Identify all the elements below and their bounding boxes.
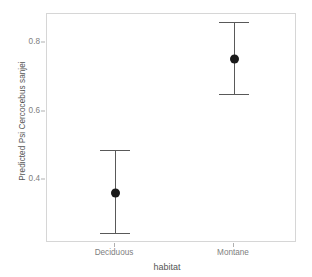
plot-area [47, 14, 295, 241]
chart-container: Predicted Psi Cercocebus sanjei 0.8 0.6 … [0, 0, 312, 277]
data-point[interactable] [230, 54, 239, 63]
x-axis-title: habitat [153, 263, 180, 272]
x-tick-mark [233, 243, 234, 247]
y-axis-tick-labels: 0.8 0.6 0.4 [27, 0, 40, 277]
y-tick-label: 0.4 [27, 175, 40, 183]
errorbar-cap-upper [219, 22, 249, 23]
y-tick-mark [41, 42, 45, 43]
y-tick-label: 0.6 [27, 106, 40, 114]
x-tick-label-montane: Montane [217, 249, 249, 257]
x-axis-title-wrapper: habitat [0, 263, 312, 272]
data-point[interactable] [111, 188, 120, 197]
x-tick-mark [114, 243, 115, 247]
plot-panel [46, 13, 296, 242]
y-tick-mark [41, 179, 45, 180]
y-tick-label: 0.8 [27, 38, 40, 46]
y-tick-mark [41, 110, 45, 111]
errorbar-cap-lower [100, 233, 130, 234]
errorbar-cap-upper [100, 150, 130, 151]
errorbar-cap-lower [219, 94, 249, 95]
x-tick-label-deciduous: Deciduous [95, 249, 134, 257]
